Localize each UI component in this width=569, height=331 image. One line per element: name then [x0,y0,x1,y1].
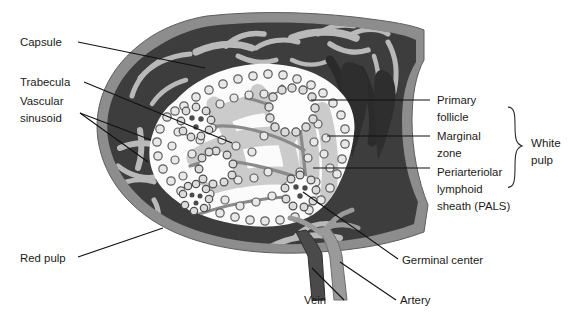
spleen-diagram: Capsule Trabecula Vascular sinusoid Red … [0,0,569,331]
label-marginal-zone-line2: zone [437,147,462,159]
label-primary-follicle: Primary [437,94,477,106]
label-white-pulp: White [531,136,561,149]
label-vein: Vein [304,294,326,306]
label-marginal-zone: Marginal [437,130,481,142]
label-artery: Artery [400,294,431,306]
leader-red-pulp [78,228,163,257]
leader-artery [340,262,396,300]
label-germinal-center: Germinal center [402,254,483,266]
label-primary-follicle-line2: follicle [437,111,469,123]
label-capsule: Capsule [20,36,62,48]
label-vascular-sinusoid-line2: sinusoid [20,112,62,124]
label-red-pulp: Red pulp [20,252,66,264]
label-white-pulp-line2: pulp [531,153,553,166]
white-pulp-brace [508,107,522,187]
label-trabecula: Trabecula [20,76,71,88]
label-vascular-sinusoid: Vascular [20,95,64,107]
label-pals-line2: lymphoid [437,183,483,195]
label-pals: Periarteriolar [437,166,502,178]
label-pals-line3: sheath (PALS) [437,200,510,212]
